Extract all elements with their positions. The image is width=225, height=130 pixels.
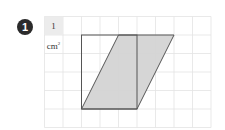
unit-label-superscript: 2 bbox=[58, 41, 61, 46]
unit-area-label: 1 cm2 bbox=[44, 17, 63, 35]
grid-diagram bbox=[0, 0, 225, 130]
unit-label-text: 1 cm bbox=[47, 21, 58, 51]
